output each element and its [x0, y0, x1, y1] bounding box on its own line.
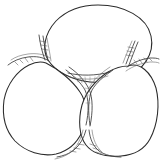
three-cell-junction-diagram [0, 0, 163, 164]
figure-container: Three adjoining cells with intercellular… [0, 0, 163, 164]
